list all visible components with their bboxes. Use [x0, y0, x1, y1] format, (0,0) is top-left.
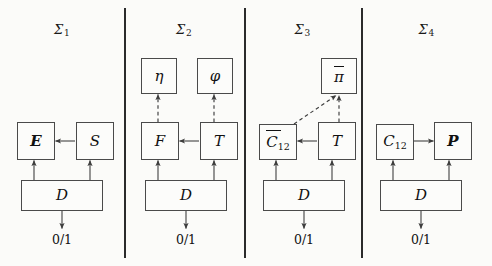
- node-pi-bar-label: π: [334, 68, 344, 85]
- node-Cbar12-subscript: 12: [278, 141, 290, 152]
- node-D-p3[interactable]: D: [263, 180, 345, 211]
- node-P[interactable]: P: [434, 122, 472, 160]
- node-C12[interactable]: C12: [376, 124, 414, 160]
- node-phi[interactable]: φ: [197, 58, 233, 94]
- io-label-p1-text: 0/1: [52, 232, 72, 247]
- node-C12-base: C: [383, 132, 394, 150]
- node-F-label: F: [155, 134, 165, 149]
- node-T-p2[interactable]: T: [200, 122, 238, 160]
- node-T-p3[interactable]: T: [318, 122, 356, 160]
- node-T-p3-label: T: [332, 134, 342, 149]
- node-E-label: E: [30, 134, 41, 149]
- panel-title-sigma-3: Σ3: [244, 22, 361, 38]
- node-S-label: S: [90, 134, 100, 149]
- panel-title-base: Σ: [295, 22, 304, 37]
- figure-canvas: Σ1 E S D 0/1 Σ2 η φ F T D 0/1 Σ3: [0, 0, 492, 266]
- node-D-p2[interactable]: D: [145, 180, 227, 211]
- node-Cbar12-base: C: [266, 133, 277, 151]
- panel-title-subscript: 3: [304, 28, 310, 38]
- node-E[interactable]: E: [17, 122, 55, 160]
- panel-title-subscript: 2: [185, 28, 191, 38]
- io-label-p2: 0/1: [166, 232, 206, 247]
- node-Cbar12-label: C12: [266, 133, 290, 152]
- node-C12-subscript: 12: [395, 140, 407, 151]
- node-Cbar12[interactable]: C12: [259, 124, 297, 160]
- panel-title-subscript: 1: [63, 28, 69, 38]
- overbar-pi: [334, 66, 343, 67]
- node-T-p2-label: T: [214, 134, 224, 149]
- io-label-p2-text: 0/1: [176, 232, 196, 247]
- io-label-p3: 0/1: [284, 232, 324, 247]
- node-eta[interactable]: η: [141, 58, 177, 94]
- io-label-p3-text: 0/1: [294, 232, 314, 247]
- panel-title-base: Σ: [419, 22, 428, 37]
- panel-title-sigma-2: Σ2: [124, 22, 244, 38]
- node-F[interactable]: F: [141, 122, 179, 160]
- node-D-p1[interactable]: D: [21, 180, 103, 211]
- node-phi-label: φ: [210, 69, 221, 84]
- node-pi-bar[interactable]: π: [321, 58, 357, 94]
- node-D-p3-label: D: [298, 188, 310, 203]
- node-D-p2-label: D: [180, 188, 192, 203]
- node-D-p4-label: D: [415, 188, 427, 203]
- io-label-p4-text: 0/1: [411, 232, 431, 247]
- panel-title-sigma-1: Σ1: [0, 22, 124, 38]
- io-label-p4: 0/1: [401, 232, 441, 247]
- node-D-p4[interactable]: D: [380, 180, 462, 211]
- node-C12-label: C12: [383, 134, 407, 151]
- io-label-p1: 0/1: [42, 232, 82, 247]
- node-D-p1-label: D: [56, 188, 68, 203]
- node-eta-label: η: [155, 69, 164, 84]
- node-P-label: P: [447, 134, 458, 149]
- node-pi-text: π: [334, 68, 344, 86]
- overbar-c: [266, 130, 281, 131]
- panel-title-sigma-4: Σ4: [361, 22, 492, 38]
- panel-title-subscript: 4: [428, 28, 434, 38]
- node-S[interactable]: S: [76, 122, 114, 160]
